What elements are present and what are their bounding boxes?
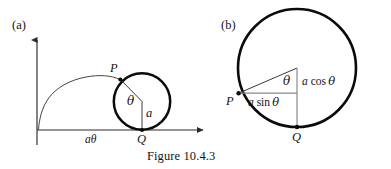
- panel-a-group: [37, 40, 203, 145]
- panel-a-label-q: Q: [137, 133, 146, 146]
- panel-b-label-p: P: [226, 95, 234, 108]
- panel-b-label-theta: θ: [283, 75, 290, 87]
- a-sin-argument: θ: [272, 95, 279, 109]
- panel-b-label-a-cos-theta: a cos θ: [302, 76, 335, 88]
- panel-a-label-a: a: [146, 107, 152, 120]
- panel-b-label-q: Q: [292, 131, 301, 144]
- panel-b-group: [236, 9, 356, 129]
- panel-b-tag: (b): [221, 19, 236, 32]
- cycloid-curve: [39, 76, 121, 130]
- panel-b-label-a-sin-theta: a sin θ: [248, 97, 279, 109]
- panel-b-point-p-dot: [236, 91, 240, 95]
- a-sin-function: sin: [257, 96, 270, 108]
- figure-caption: Figure 10.4.3: [147, 150, 215, 163]
- a-cos-function: cos: [311, 75, 326, 87]
- panel-a-point-p-dot: [118, 77, 122, 81]
- panel-a-label-p: P: [110, 62, 118, 75]
- figure-10-4-3: (a) P θ a Q aθ (b) θ a cos θ P a sin θ Q…: [0, 0, 391, 169]
- panel-b-point-q-dot: [295, 125, 299, 129]
- panel-a-label-arc-length: aθ: [85, 134, 96, 146]
- panel-a-tag: (a): [12, 19, 26, 32]
- a-cos-argument: θ: [328, 74, 335, 88]
- panel-a-label-theta: θ: [127, 95, 134, 107]
